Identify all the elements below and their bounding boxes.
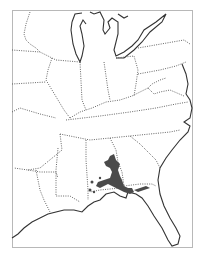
coastline bbox=[12, 64, 192, 246]
range-map bbox=[0, 0, 203, 260]
map-frame bbox=[13, 11, 193, 248]
species-range bbox=[89, 154, 151, 194]
great-lakes bbox=[71, 12, 166, 62]
